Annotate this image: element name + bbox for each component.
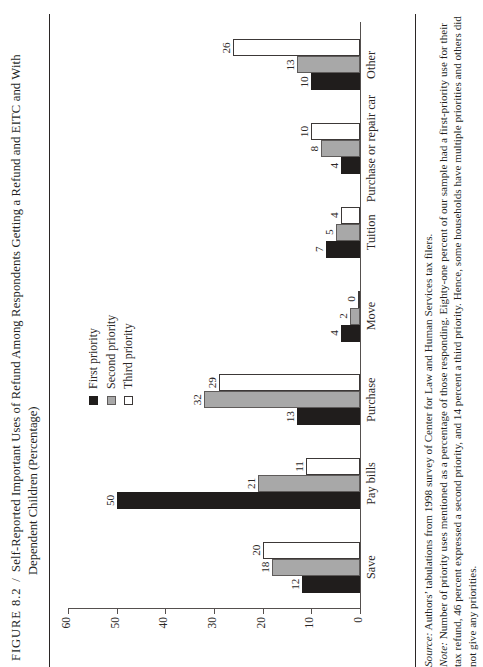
source-text: Authors’ tabulations from 1998 survey of…	[422, 234, 434, 633]
bar: 50	[117, 492, 360, 509]
bar: 12	[302, 576, 360, 593]
bar-group: 101326Other	[68, 23, 360, 107]
legend-item: First priority	[86, 315, 102, 405]
bar-value-label: 7	[313, 247, 325, 253]
y-axis-tick-mark	[165, 609, 166, 614]
figure-number: FIGURE 8.2	[9, 588, 23, 661]
source-note: Source: Authors’ tabulations from 1998 s…	[421, 14, 436, 667]
bar-value-label: 13	[284, 411, 296, 422]
y-axis-tick-mark	[214, 609, 215, 614]
bar: 29	[219, 374, 360, 391]
note-text: Number of priority uses mentioned as a p…	[437, 16, 478, 667]
legend-swatch	[107, 396, 116, 405]
bar-value-label: 2	[337, 313, 349, 319]
explanatory-note: Note: Number of priority uses mentioned …	[436, 14, 480, 667]
y-axis-tick-label: 20	[255, 617, 267, 629]
y-axis-tick-mark	[360, 609, 361, 614]
bar: 13	[297, 408, 360, 425]
bar-value-label: 5	[323, 230, 335, 236]
y-axis-tick-mark	[117, 609, 118, 614]
bar-group: 4810Purchase or repair car	[68, 107, 360, 191]
y-axis-tick-label: 0	[352, 617, 364, 623]
bar-value-label: 8	[308, 146, 320, 152]
bar: 0	[358, 291, 360, 308]
bar: 7	[326, 241, 360, 258]
figure-title-line-2: Dependent Children (Percentage)	[25, 15, 42, 575]
bar: 13	[297, 56, 360, 73]
y-axis-tick-mark	[311, 609, 312, 614]
legend-item: Third priority	[121, 315, 137, 405]
bar: 8	[321, 140, 360, 157]
bar-value-label: 32	[191, 394, 203, 405]
chart-legend: First prioritySecond priorityThird prior…	[86, 315, 139, 405]
bar-value-label: 13	[284, 59, 296, 70]
y-axis-tick-mark	[263, 609, 264, 614]
bar: 26	[233, 39, 360, 56]
bar-value-label: 20	[250, 545, 262, 556]
notes-divider-rule	[415, 14, 416, 667]
x-axis-category-label: Tuition	[364, 214, 379, 250]
title-separator: /	[9, 572, 23, 588]
x-axis-category-label: Other	[364, 51, 379, 79]
figure-title-line-1: Self-Reported Important Uses of Refund A…	[9, 54, 23, 572]
bar: 32	[204, 391, 360, 408]
bar: 4	[341, 325, 360, 342]
figure-notes: Source: Authors’ tabulations from 1998 s…	[421, 14, 479, 667]
bar: 10	[311, 123, 360, 140]
bar-value-label: 50	[104, 495, 116, 506]
bar-value-label: 26	[220, 42, 232, 53]
x-axis-category-label: Purchase or repair car	[364, 95, 379, 203]
bar-value-label: 10	[298, 76, 310, 87]
bar-value-label: 10	[298, 126, 310, 137]
y-axis-tick-label: 50	[109, 617, 121, 629]
bar-value-label: 0	[345, 296, 357, 302]
bar-value-label: 21	[245, 478, 257, 489]
x-axis-category-label: Move	[364, 302, 379, 331]
bar-value-label: 11	[293, 461, 305, 472]
legend-label: Second priority	[104, 315, 120, 389]
source-label: Source:	[422, 633, 434, 667]
bar-value-label: 29	[206, 377, 218, 388]
bar: 10	[311, 73, 360, 90]
rotated-page-frame: FIGURE 8.2/Self-Reported Important Uses …	[0, 0, 483, 667]
y-axis-tick-label: 10	[303, 617, 315, 629]
bar-value-label: 18	[259, 562, 271, 573]
legend-swatch	[124, 396, 133, 405]
bar-group: 502111Pay bills	[68, 442, 360, 526]
y-axis-tick-label: 40	[157, 617, 169, 629]
legend-swatch	[89, 396, 98, 405]
bar-chart: Respondents’ Priority Use 0102030405060 …	[56, 7, 416, 667]
note-label: Note:	[437, 642, 449, 667]
legend-label: Third priority	[121, 323, 137, 389]
bar-value-label: 4	[328, 163, 340, 169]
bar-value-label: 12	[289, 579, 301, 590]
legend-item: Second priority	[104, 315, 120, 405]
bar-value-label: 4	[328, 213, 340, 219]
book-figure-page: FIGURE 8.2/Self-Reported Important Uses …	[0, 0, 483, 667]
y-axis-tick-label: 30	[206, 617, 218, 629]
bar: 11	[306, 458, 360, 475]
x-axis-category-label: Save	[364, 555, 379, 579]
x-axis-line	[360, 22, 361, 609]
bar: 4	[341, 207, 360, 224]
bar: 20	[263, 542, 360, 559]
bar: 4	[341, 157, 360, 174]
figure-title: FIGURE 8.2/Self-Reported Important Uses …	[8, 21, 25, 661]
bar: 21	[258, 475, 360, 492]
x-axis-category-label: Pay bills	[364, 462, 379, 505]
bar-group: 754Tuition	[68, 190, 360, 274]
y-axis-tick-mark	[68, 609, 69, 614]
title-divider-rule	[49, 14, 50, 667]
bar-group: 121820Save	[68, 525, 360, 609]
legend-label: First priority	[86, 328, 102, 389]
bar: 5	[336, 224, 360, 241]
bar: 18	[272, 559, 360, 576]
x-axis-category-label: Purchase	[364, 378, 379, 422]
bar: 2	[350, 308, 360, 325]
bar-value-label: 4	[328, 330, 340, 336]
y-axis-tick-label: 60	[60, 617, 72, 629]
